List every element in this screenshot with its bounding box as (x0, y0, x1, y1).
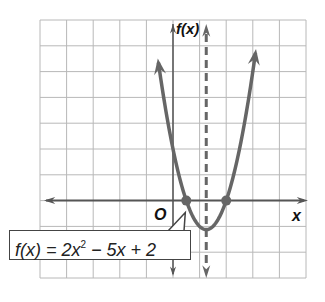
axis-of-symmetry (202, 24, 210, 278)
callout-pointer (168, 213, 185, 231)
equation-part-1: f(x) = 2x (15, 240, 81, 260)
equation-callout: f(x) = 2x2 − 5x + 2 (9, 230, 191, 260)
root-point (181, 196, 191, 206)
equation-part-2: − 5x + 2 (86, 240, 156, 260)
y-axis-label: f(x) (176, 20, 199, 37)
root-point (221, 196, 231, 206)
origin-label: O (154, 206, 167, 223)
x-axis-label: x (291, 207, 302, 224)
symmetry-arrow-down (202, 265, 210, 278)
